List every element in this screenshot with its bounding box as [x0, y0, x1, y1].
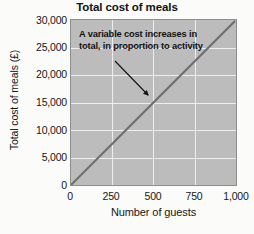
x-tick-label-1000: 1,000	[211, 190, 254, 202]
y-axis-label: Total cost of meals (£)	[8, 20, 20, 180]
plot-area: A variable cost increases in total, in p…	[70, 19, 237, 186]
x-axis-label: Number of guests	[70, 206, 237, 218]
chart-figure: Total cost of meals 30,000 25,000 20,000…	[0, 0, 254, 234]
annotation-text: A variable cost increases in total, in p…	[79, 29, 203, 52]
